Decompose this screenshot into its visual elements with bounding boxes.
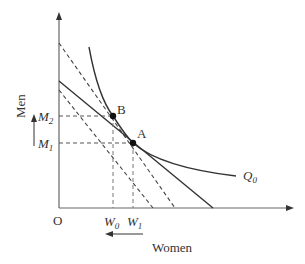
isoquant-diagram: B A M2 M1 Men O W0 W1 Women Q0 (0, 0, 305, 264)
origin-label: O (53, 213, 62, 228)
point-b-label: B (117, 102, 126, 117)
x-axis-label: Women (152, 240, 193, 255)
w0-label: W0 (104, 214, 120, 231)
point-b (110, 113, 116, 119)
dashed-budget-line-upper (59, 43, 175, 208)
isoquant-curve (89, 47, 236, 176)
y-axis-label: Men (13, 94, 28, 118)
dashed-budget-line-lower (59, 90, 153, 208)
m1-label: M1 (37, 136, 53, 153)
m2-label: M2 (37, 109, 54, 126)
point-a (130, 140, 136, 146)
w1-label: W1 (127, 214, 142, 231)
point-a-label: A (137, 126, 147, 141)
solid-budget-line (59, 81, 213, 208)
isoquant-label: Q0 (243, 168, 257, 185)
